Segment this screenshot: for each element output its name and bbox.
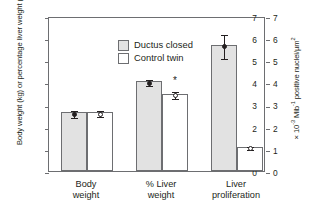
legend-item-control-twin: Control twin (118, 52, 193, 64)
error-bar-cap-lower (97, 117, 104, 118)
y-tick-left-1 (45, 151, 49, 152)
y-tick-left-5 (45, 62, 49, 63)
error-bar-cap-lower (146, 86, 153, 87)
y-tick-right-3 (266, 107, 270, 108)
y-axis-label-left: Body weight (kg) or percentage liver wei… (15, 0, 24, 148)
plot-area: 01234567 01234567 * Ductus closed Contro… (48, 17, 265, 172)
y-tick-right-7 (266, 18, 270, 19)
error-bar-cap-upper (221, 35, 228, 36)
data-point-marker-open (173, 93, 178, 98)
y-tick-right-2 (266, 129, 270, 130)
legend-swatch-ductus-closed (118, 40, 129, 51)
y-tick-label-right-4: 4 (273, 80, 278, 88)
legend-swatch-control-twin (118, 53, 129, 64)
y-axis-right-exponent-3: 2 (290, 38, 296, 41)
y-tick-label-right-6: 6 (273, 36, 278, 44)
data-point-marker-open (248, 146, 253, 151)
data-point-marker-filled (72, 112, 77, 117)
error-bar (211, 29, 237, 65)
y-tick-left-0 (45, 173, 49, 174)
y-tick-left-4 (45, 84, 49, 85)
error-bar-cap-lower (71, 118, 78, 119)
error-bar (162, 86, 188, 104)
data-point-marker-filled (222, 44, 227, 49)
y-axis-right-exponent-1: -3 (290, 120, 296, 125)
legend-label-ductus-closed: Ductus closed (134, 40, 193, 50)
y-tick-label-right-7: 7 (273, 14, 278, 22)
y-tick-right-0 (266, 173, 270, 174)
bar (162, 94, 188, 172)
y-tick-right-4 (266, 84, 270, 85)
y-tick-label-right-1: 1 (273, 147, 278, 155)
figure-bar-chart: Body weight (kg) or percentage liver wei… (0, 0, 319, 213)
y-axis-label-right: × 10-3 Mib-1 positive nuclei/µm2 (292, 1, 301, 176)
error-bar (87, 105, 113, 123)
x-axis-label-line: Liver (191, 179, 281, 190)
legend: Ductus closed Control twin (118, 39, 193, 65)
y-tick-label-left-6: 6 (252, 36, 257, 44)
y-tick-label-left-5: 5 (252, 58, 257, 66)
y-axis-right-exponent-2: -1 (290, 101, 296, 106)
y-tick-label-left-7: 7 (252, 14, 257, 22)
x-axis-label-group-3: Liverproliferation (191, 179, 281, 200)
y-tick-label-left-2: 2 (252, 125, 257, 133)
y-tick-left-2 (45, 129, 49, 130)
bar (136, 81, 162, 171)
y-tick-label-left-4: 4 (252, 80, 257, 88)
y-tick-left-6 (45, 40, 49, 41)
y-tick-right-6 (266, 40, 270, 41)
error-bar (136, 74, 162, 92)
x-axis-label-line: proliferation (191, 190, 281, 201)
y-tick-right-1 (266, 151, 270, 152)
legend-item-ductus-closed: Ductus closed (118, 39, 193, 51)
y-tick-right-5 (266, 62, 270, 63)
y-tick-left-7 (45, 18, 49, 19)
y-axis-right-suffix: positive nuclei/µm (292, 41, 301, 102)
y-tick-label-right-3: 3 (273, 102, 278, 110)
error-bar-cap-lower (221, 59, 228, 60)
significance-asterisk: * (170, 76, 180, 86)
y-axis-right-middle: Mib (292, 106, 301, 120)
data-point-marker-filled (147, 81, 152, 86)
y-tick-label-right-0: 0 (273, 169, 278, 177)
data-point-marker-open (98, 112, 103, 117)
y-tick-label-right-2: 2 (273, 125, 278, 133)
error-bar (61, 105, 87, 125)
y-tick-label-right-5: 5 (273, 58, 278, 66)
legend-label-control-twin: Control twin (134, 53, 184, 63)
error-bar (237, 141, 263, 157)
y-axis-right-prefix: × 10 (292, 125, 301, 140)
y-tick-label-left-3: 3 (252, 102, 257, 110)
y-tick-left-3 (45, 107, 49, 108)
error-bar-cap-lower (172, 99, 179, 100)
